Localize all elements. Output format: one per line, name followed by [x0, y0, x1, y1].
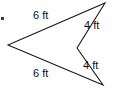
side-label-lower-right: 4 ft — [83, 60, 98, 71]
side-label-top: 6 ft — [33, 10, 48, 21]
polygon-shape — [0, 0, 115, 91]
side-label-upper-right: 4 ft — [84, 20, 99, 31]
concave-arrow-polygon — [8, 3, 105, 85]
stray-mark — [1, 17, 4, 20]
geometry-figure: 6 ft 4 ft 4 ft 6 ft — [0, 0, 115, 91]
side-label-bottom: 6 ft — [33, 68, 48, 79]
